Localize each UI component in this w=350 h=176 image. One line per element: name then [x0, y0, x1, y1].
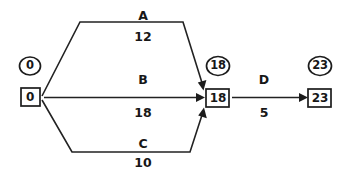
arrowhead-activity-a: [198, 80, 207, 91]
network-diagram-canvas: 0 0 18 18 23 23 A 12 B 18 C 10 D 5: [0, 0, 350, 176]
activity-d-label: D: [259, 74, 269, 87]
node-start-box-value: 0: [26, 91, 34, 103]
activity-a-label: A: [138, 10, 148, 23]
activity-a-duration: 12: [134, 31, 151, 44]
node-merge-circle-value: 18: [210, 60, 226, 72]
edge-activity-a: [42, 22, 203, 96]
activity-b-duration: 18: [134, 107, 151, 120]
activity-c-label: C: [138, 138, 147, 151]
node-finish-circle-value: 23: [312, 60, 328, 72]
activity-b-label: B: [138, 74, 148, 87]
edge-activity-c: [42, 100, 203, 152]
network-diagram-svg: [0, 0, 350, 176]
node-finish-box-value: 23: [312, 92, 328, 104]
arrowhead-activity-c: [198, 108, 207, 119]
activity-d-duration: 5: [260, 107, 269, 120]
node-start-circle-value: 0: [26, 60, 34, 72]
node-merge-box-value: 18: [210, 92, 226, 104]
arrowhead-activity-d: [299, 93, 308, 102]
arrowhead-activity-b: [196, 93, 205, 102]
activity-c-duration: 10: [134, 157, 151, 170]
